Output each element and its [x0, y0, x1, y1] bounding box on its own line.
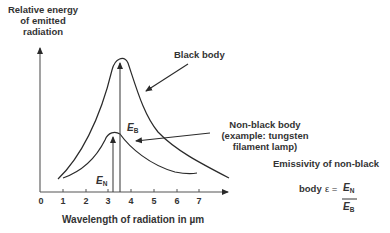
nb-line: (example: tungsten: [210, 130, 320, 141]
y-label-line: radiation: [3, 26, 83, 37]
formula-denominator: EB: [343, 201, 354, 215]
y-label-line: Relative energy: [3, 4, 83, 15]
emissivity-body-word: body: [299, 183, 322, 194]
eb-label: EB: [127, 122, 138, 136]
nb-line: Non-black body: [210, 119, 320, 130]
black-body-label: Black body: [174, 49, 225, 60]
x-tick-1: 1: [60, 196, 65, 206]
x-tick-3: 3: [105, 196, 110, 206]
black-body-curve: [58, 59, 229, 179]
x-tick-7: 7: [196, 196, 201, 206]
non-black-body-pointer: [136, 133, 210, 141]
x-tick-0: 0: [38, 196, 43, 206]
nb-line: filament lamp): [210, 141, 320, 152]
eb-letter: E: [127, 122, 134, 133]
x-tick-6: 6: [174, 196, 179, 206]
y-label-line: of emitted: [3, 15, 83, 26]
en-sub: N: [103, 180, 108, 187]
emissivity-caption: Emissivity of non-black: [273, 158, 379, 169]
non-black-body-curve: [63, 132, 197, 178]
num-sub: N: [350, 187, 355, 194]
eb-sub: B: [134, 127, 139, 134]
formula-numerator: EN: [343, 182, 354, 196]
den-sub: B: [350, 206, 355, 213]
den-letter: E: [343, 201, 350, 212]
x-axis-label: Wavelength of radiation in µm: [62, 214, 204, 225]
en-letter: E: [96, 175, 103, 186]
epsilon-symbol: ε =: [325, 183, 337, 194]
num-letter: E: [343, 182, 350, 193]
x-tick-4: 4: [128, 196, 133, 206]
x-tick-5: 5: [151, 196, 156, 206]
x-tick-2: 2: [83, 196, 88, 206]
en-label: EN: [96, 175, 107, 189]
non-black-body-label: Non-black body (example: tungsten filame…: [210, 119, 320, 152]
black-body-pointer: [146, 64, 188, 91]
y-axis-label: Relative energy of emitted radiation: [3, 4, 83, 37]
